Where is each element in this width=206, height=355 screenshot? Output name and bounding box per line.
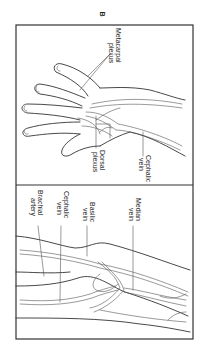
- hand-illustration: [22, 64, 185, 156]
- vein-diagram: B: [0, 0, 206, 355]
- label-median-vein: Median: [135, 198, 142, 221]
- label-cephalic-vein-hand-line2: vein: [138, 158, 145, 171]
- label-brachial-artery-line2: artery: [29, 198, 37, 216]
- label-brachial-artery: Brachial: [37, 190, 44, 216]
- label-basilic-vein: Basilic: [89, 202, 96, 223]
- label-dorsal-plexus-line2: plexus: [91, 152, 99, 173]
- label-cephalic-vein-arm-line2: vein: [56, 202, 63, 215]
- forearm-illustration: [16, 236, 190, 332]
- panel-letter: B: [99, 11, 106, 16]
- label-basilic-vein-line2: vein: [82, 208, 89, 221]
- label-dorsal-plexus: Dorsal: [99, 150, 106, 171]
- label-metacarpal-plexus-line2: plexus: [107, 43, 115, 64]
- label-median-vein-line2: vein: [128, 208, 135, 221]
